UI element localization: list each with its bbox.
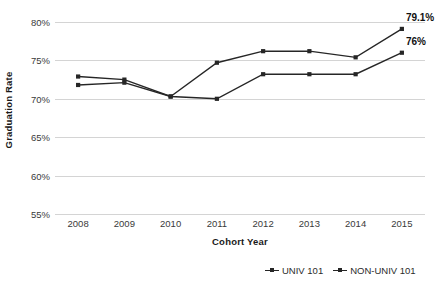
legend-marker-icon — [333, 266, 347, 275]
y-axis-tick-label: 75% — [14, 55, 50, 66]
x-axis-tick-label: 2015 — [379, 218, 425, 229]
data-point-marker — [215, 61, 219, 65]
y-axis-tick-label: 60% — [14, 170, 50, 181]
x-axis-tick-label: 2008 — [55, 218, 101, 229]
x-axis-tick-labels: 20082009201020112012201320142015 — [55, 218, 425, 234]
gridline — [55, 214, 425, 215]
data-point-marker — [261, 49, 265, 53]
plot-area — [55, 22, 425, 214]
y-axis-tick-label: 55% — [14, 209, 50, 220]
data-point-marker — [122, 81, 126, 85]
data-label: 76% — [406, 36, 426, 47]
legend-item[interactable]: NON-UNIV 101 — [333, 265, 415, 276]
x-axis-tick-label: 2009 — [101, 218, 147, 229]
data-point-marker — [400, 51, 404, 55]
chart-legend: UNIV 101NON-UNIV 101 — [265, 262, 445, 278]
x-axis-title: Cohort Year — [55, 236, 425, 247]
data-point-marker — [76, 74, 80, 78]
data-point-marker — [354, 72, 358, 76]
series-layer — [55, 22, 425, 214]
data-point-marker — [400, 27, 404, 31]
legend-label: UNIV 101 — [282, 265, 323, 276]
graduation-rate-line-chart: Graduation Rate 80%75%70%65%60%55% 20082… — [0, 0, 445, 286]
x-axis-tick-label: 2012 — [240, 218, 286, 229]
legend-marker-icon — [265, 266, 279, 275]
x-axis-tick-label: 2013 — [286, 218, 332, 229]
data-point-marker — [307, 72, 311, 76]
data-point-marker — [76, 83, 80, 87]
y-axis-tick-label: 80% — [14, 17, 50, 28]
legend-item[interactable]: UNIV 101 — [265, 265, 323, 276]
x-axis-tick-label: 2010 — [148, 218, 194, 229]
data-point-marker — [261, 72, 265, 76]
x-axis-tick-label: 2011 — [194, 218, 240, 229]
x-axis-tick-label: 2014 — [333, 218, 379, 229]
y-axis-tick-labels: 80%75%70%65%60%55% — [8, 22, 50, 214]
data-point-marker — [307, 49, 311, 53]
data-point-marker — [169, 94, 173, 98]
y-axis-tick-label: 70% — [14, 93, 50, 104]
series-line — [78, 53, 402, 99]
data-point-marker — [354, 55, 358, 59]
y-axis-tick-label: 65% — [14, 132, 50, 143]
data-label: 79.1% — [406, 12, 434, 23]
data-point-marker — [215, 97, 219, 101]
legend-label: NON-UNIV 101 — [350, 265, 415, 276]
